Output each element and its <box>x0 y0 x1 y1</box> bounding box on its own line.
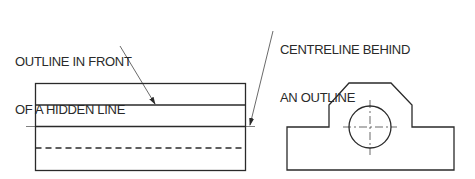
leader-arrow-outline <box>120 46 155 104</box>
leaders <box>120 31 273 125</box>
side-view <box>287 83 454 170</box>
side-view-profile <box>287 83 454 170</box>
front-view <box>26 84 255 171</box>
drawing-canvas <box>0 0 475 179</box>
leader-arrow-centreline <box>250 31 273 125</box>
